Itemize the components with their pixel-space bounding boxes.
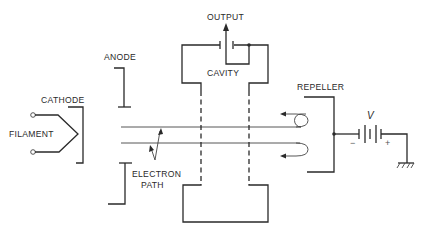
cathode-electrode bbox=[68, 107, 83, 163]
filament-label: FILAMENT bbox=[9, 129, 54, 139]
filament-terminal-top bbox=[31, 113, 36, 118]
battery-plus-label: + bbox=[385, 138, 390, 148]
cathode-label: CATHODE bbox=[41, 95, 84, 105]
arrowhead-icon bbox=[149, 145, 154, 152]
battery-icon bbox=[359, 125, 381, 143]
output-label: OUTPUT bbox=[207, 12, 245, 22]
repeller-electrode bbox=[304, 97, 334, 172]
arrowhead-icon bbox=[158, 128, 163, 135]
anode-lower bbox=[108, 163, 125, 204]
cavity-label: CAVITY bbox=[207, 68, 239, 78]
electron-path-label-2: PATH bbox=[141, 180, 164, 190]
output-arrow-icon bbox=[223, 23, 229, 31]
arrowhead-icon bbox=[280, 154, 286, 159]
return-loop-upper-curve bbox=[295, 114, 307, 127]
electron-path-pointer bbox=[151, 131, 160, 160]
cavity-bottom bbox=[183, 184, 268, 222]
anode-upper bbox=[114, 68, 124, 107]
repeller-label: REPELLER bbox=[297, 82, 344, 92]
return-loop-lower bbox=[284, 143, 308, 156]
filament-terminal-bottom bbox=[31, 150, 36, 155]
battery-minus-label: − bbox=[350, 138, 355, 148]
arrowhead-icon bbox=[280, 112, 286, 117]
ground-icon bbox=[397, 163, 414, 168]
reflex-klystron-diagram: FILAMENT CATHODE ANODE ELECTRON PATH CAV… bbox=[0, 0, 421, 239]
anode-label: ANODE bbox=[104, 52, 136, 62]
output-junction-dot bbox=[247, 43, 251, 47]
electron-path-label-1: ELECTRON bbox=[132, 169, 181, 179]
voltage-label: V bbox=[367, 110, 375, 121]
